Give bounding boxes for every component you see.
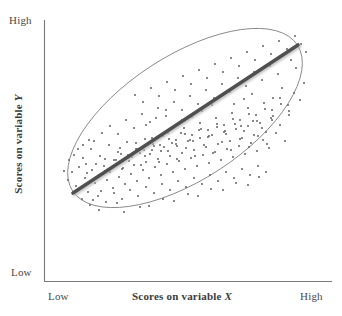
scatter-point (168, 138, 170, 140)
scatter-point (153, 192, 155, 194)
scatter-point (261, 79, 263, 81)
y-axis-high-label: High (9, 14, 32, 26)
scatter-point (262, 45, 264, 47)
scatter-point (205, 89, 207, 91)
scatter-point (185, 147, 187, 149)
scatter-point (197, 195, 199, 197)
scatter-point (264, 108, 266, 110)
scatter-point (249, 174, 251, 176)
scatter-point (119, 147, 121, 149)
scatter-point (100, 190, 102, 192)
scatter-point (262, 139, 264, 141)
scatter-point (149, 121, 151, 123)
scatter-point (162, 198, 164, 200)
scatter-point (183, 127, 185, 129)
scatter-point (124, 183, 126, 185)
scatter-point (117, 151, 119, 153)
scatter-point (214, 63, 216, 65)
scatter-point (116, 202, 118, 204)
scatter-point (109, 171, 111, 173)
scatter-point (217, 180, 219, 182)
scatter-point (277, 73, 279, 75)
scatter-point (145, 186, 147, 188)
scatter-point (78, 166, 80, 168)
scatter-point (160, 150, 162, 152)
scatter-point (305, 51, 307, 53)
scatter-point (247, 125, 249, 127)
scatter-point (247, 107, 249, 109)
scatter-point (172, 171, 174, 173)
scatter-point (157, 158, 159, 160)
scatter-point (82, 144, 84, 146)
scatter-point (229, 140, 231, 142)
scatter-point (300, 43, 302, 45)
scatter-point (253, 134, 255, 136)
scatter-point (265, 171, 267, 173)
scatter-point (222, 189, 224, 191)
scatter-point (175, 139, 177, 141)
scatter-point (133, 127, 135, 129)
scatter-point (173, 101, 175, 103)
scatter-point (123, 211, 125, 213)
scatter-point (98, 209, 100, 211)
scatter-point (235, 128, 237, 130)
scatter-point (225, 171, 227, 173)
scatter-point (261, 127, 263, 129)
scatter-point (143, 149, 145, 151)
scatter-point (206, 77, 208, 79)
scatter-point (167, 150, 169, 152)
scatter-point (63, 170, 65, 172)
scatter-point (275, 132, 277, 134)
scatter-point (251, 93, 253, 95)
scatter-point (81, 198, 83, 200)
x-axis-high-label: High (300, 290, 323, 302)
scatter-point (194, 155, 196, 157)
y-axis-title-variable: Y (12, 94, 24, 101)
scatter-point (154, 166, 156, 168)
scatter-point (145, 161, 147, 163)
scatter-point (199, 122, 201, 124)
scatter-point (180, 132, 182, 134)
scatter-point (77, 148, 79, 150)
scatter-point (232, 156, 234, 158)
x-axis-title: Scores on variable X (132, 290, 232, 302)
scatter-point (158, 95, 160, 97)
scatter-point (207, 129, 209, 131)
data-envelope-ellipse (39, 0, 331, 243)
scatter-point (175, 143, 177, 145)
scatter-point (150, 87, 152, 89)
scatter-point (171, 142, 173, 144)
scatter-point (189, 139, 191, 141)
scatter-point (181, 109, 183, 111)
scatter-point (280, 103, 282, 105)
scatter-point (121, 198, 123, 200)
scatter-point (226, 148, 228, 150)
scatter-point (155, 117, 157, 119)
scatter-point (215, 117, 217, 119)
scatter-point (294, 35, 296, 37)
scatter-point (252, 120, 254, 122)
scatter-point (248, 113, 250, 115)
scatter-point (177, 180, 179, 182)
x-axis-title-text: Scores on variable (132, 290, 225, 302)
scatter-point (176, 158, 178, 160)
scatter-point (254, 59, 256, 61)
scatter-point (198, 69, 200, 71)
scatter-point (140, 164, 142, 166)
scatter-point (197, 103, 199, 105)
scatter-point (105, 201, 107, 203)
scatter-point (115, 159, 117, 161)
scatter-point (202, 154, 204, 156)
scatter-point (231, 112, 233, 114)
scatter-point (117, 133, 119, 135)
scatter-point (157, 107, 159, 109)
scatter-point (240, 125, 242, 127)
scatter-point (118, 176, 120, 178)
scatter-point (75, 185, 77, 187)
scatter-point (130, 173, 132, 175)
scatter-point (196, 165, 198, 167)
scatter-point (106, 179, 108, 181)
scatter-point (169, 189, 171, 191)
scatter-point (187, 140, 189, 142)
scatter-point (92, 199, 94, 201)
